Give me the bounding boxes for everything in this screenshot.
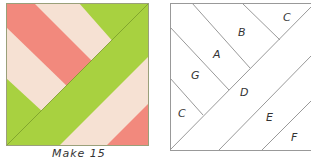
label-d: D <box>240 86 248 99</box>
label-e: E <box>266 111 273 124</box>
label-a: A <box>212 48 221 61</box>
caption: Make 15 <box>52 147 106 157</box>
label-g: G <box>191 69 200 82</box>
label-c-bottom: C <box>178 107 186 120</box>
label-f: F <box>291 131 298 144</box>
label-c-top: C <box>283 11 291 24</box>
quilt-block-diagram: C B A G D C E F <box>170 3 311 151</box>
label-b: B <box>238 26 246 39</box>
colored-quilt-block <box>6 3 149 146</box>
